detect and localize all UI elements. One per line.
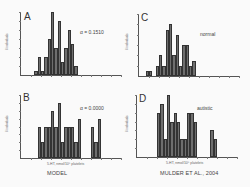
y-axis-label: # individuals <box>125 115 129 132</box>
x-tick <box>229 76 230 78</box>
plot-area <box>138 14 239 77</box>
x-tick <box>169 76 170 78</box>
x-axis-label: 5-HT, nmol/10⁹ platelets <box>166 161 203 165</box>
x-tick <box>149 76 150 78</box>
y-tick <box>19 142 21 143</box>
histogram-bar <box>194 122 197 157</box>
x-tick <box>239 76 240 78</box>
y-tick <box>137 66 139 67</box>
x-tick <box>227 157 228 159</box>
x-tick <box>61 158 62 160</box>
group-annotation: normal <box>200 31 215 37</box>
y-tick <box>19 127 21 128</box>
y-tick <box>137 55 139 56</box>
y-tick <box>135 139 137 140</box>
plot-area <box>136 95 237 158</box>
x-tick <box>81 158 82 160</box>
y-axis-label: # individuals <box>5 115 9 132</box>
histogram-bar <box>98 119 101 158</box>
alpha-annotation: α = 0.0000 <box>80 105 104 111</box>
y-tick <box>19 111 21 112</box>
x-tick <box>187 157 188 159</box>
x-axis-label: 5-HT, nmol/10⁹ platelets <box>47 162 84 166</box>
y-tick <box>135 122 137 123</box>
x-tick <box>101 158 102 160</box>
histogram-bar <box>78 119 81 158</box>
y-tick <box>137 14 139 15</box>
x-tick <box>71 158 72 160</box>
x-tick <box>189 76 190 78</box>
x-tick <box>199 76 200 78</box>
x-tick <box>31 158 32 160</box>
y-tick <box>135 95 137 96</box>
x-tick <box>121 75 122 77</box>
x-tick <box>159 76 160 78</box>
x-tick <box>111 158 112 160</box>
y-tick <box>19 119 21 120</box>
y-axis-label: # individuals <box>125 33 129 50</box>
x-tick <box>147 157 148 159</box>
y-tick <box>19 134 21 135</box>
histogram-bar <box>214 139 217 157</box>
x-tick <box>219 76 220 78</box>
y-tick <box>137 24 139 25</box>
histogram-bar <box>192 61 195 77</box>
y-tick <box>19 150 21 151</box>
x-tick <box>197 157 198 159</box>
x-tick <box>121 158 122 160</box>
y-tick <box>135 104 137 105</box>
y-tick <box>19 95 21 96</box>
x-tick <box>217 157 218 159</box>
x-tick <box>157 157 158 159</box>
x-tick <box>51 158 52 160</box>
panel-d: D # individuals autistic 5-HT, nmol/10⁹ … <box>0 0 118 80</box>
y-tick <box>135 113 137 114</box>
x-tick <box>177 157 178 159</box>
caption-model: MODEL <box>47 170 67 176</box>
group-annotation: autistic <box>197 105 213 111</box>
x-tick <box>237 157 238 159</box>
x-tick <box>167 157 168 159</box>
plot-area <box>20 95 121 159</box>
x-tick <box>179 76 180 78</box>
y-tick <box>135 130 137 131</box>
caption-mulder: MULDER ET AL., 2004 <box>160 170 218 176</box>
y-tick <box>19 103 21 104</box>
x-tick <box>207 157 208 159</box>
x-tick <box>209 76 210 78</box>
x-tick <box>41 158 42 160</box>
x-tick <box>91 158 92 160</box>
y-tick <box>135 148 137 149</box>
y-tick <box>137 35 139 36</box>
y-tick <box>137 45 139 46</box>
